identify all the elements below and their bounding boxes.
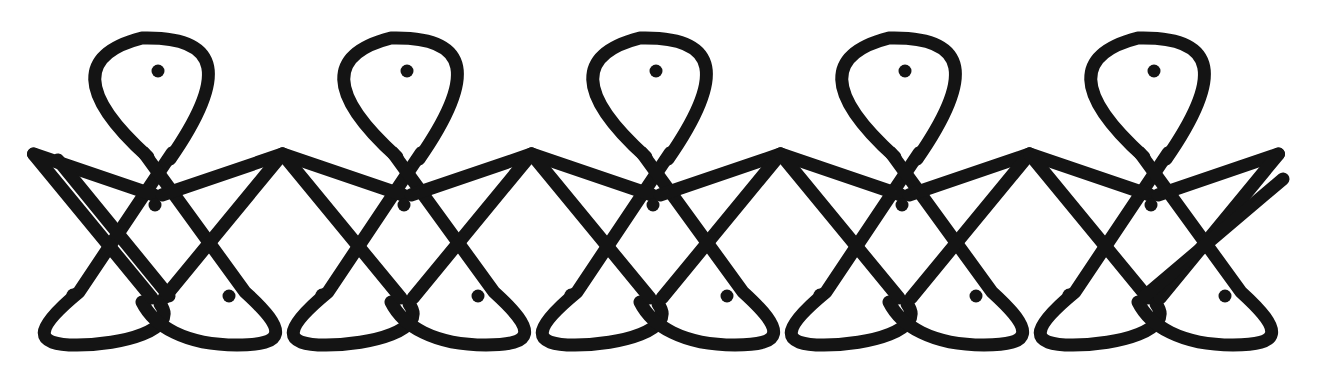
pulli-dot [1219, 290, 1232, 303]
pulli-dot [316, 289, 329, 302]
pulli-dot [223, 290, 236, 303]
pulli-dot [1145, 199, 1158, 212]
pulli-dot [647, 199, 660, 212]
pulli-dot [899, 65, 912, 78]
pulli-dot [398, 199, 411, 212]
pulli-dot [1063, 289, 1076, 302]
pulli-dot [149, 199, 162, 212]
pulli-dot [472, 290, 485, 303]
pulli-dot [67, 289, 80, 302]
pulli-dot [970, 290, 983, 303]
pulli-dot [565, 289, 578, 302]
pulli-dot [152, 65, 165, 78]
pulli-dot [1148, 65, 1161, 78]
pulli-dot [721, 290, 734, 303]
kolam-artboard [0, 0, 1321, 373]
pulli-dot [401, 65, 414, 78]
kolam-drawing [0, 0, 1321, 373]
pulli-dot [814, 289, 827, 302]
pulli-dot [650, 65, 663, 78]
pulli-dot [896, 199, 909, 212]
